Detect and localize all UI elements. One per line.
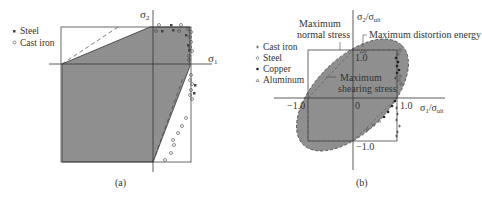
aluminum-marker-icon xyxy=(256,79,259,82)
y-axis-label-b: σ2/σult xyxy=(357,11,381,23)
steel-marker-icon xyxy=(13,30,16,33)
annotation-distortion: Maximum distortion energy xyxy=(369,29,481,40)
caption-b: (b) xyxy=(356,177,368,189)
legend-label-cast-iron: Cast iron xyxy=(20,38,55,48)
panel-b: σ2/σult σ1/σult −1.0 0 1.0 1.0 −1.0 Maxi… xyxy=(256,10,481,189)
legend-label-aluminum: Aluminum xyxy=(263,75,305,85)
legend-a: Steel Cast iron xyxy=(13,26,55,48)
copper-marker-icon xyxy=(256,68,259,71)
y-axis-label-a: σ2 xyxy=(140,8,150,22)
legend-label-steel: Steel xyxy=(20,26,39,36)
figure-canvas: σ2 σ1 Steel Cast iron (a) xyxy=(0,0,482,201)
tick-x-pos: 1.0 xyxy=(400,100,413,111)
failure-envelope-a xyxy=(62,27,190,162)
tick-x-neg: −1.0 xyxy=(287,100,305,111)
annotation-normal-line1: Maximum xyxy=(299,18,341,29)
legend-b: Cast iron Steel Copper Aluminum xyxy=(256,42,305,85)
legend-label-copper: Copper xyxy=(263,64,292,74)
steel-marker-icon xyxy=(256,57,259,60)
x-axis-label-b: σ1/σult xyxy=(420,102,444,114)
tick-y-neg: −1.0 xyxy=(356,141,374,152)
cast-iron-marker-icon xyxy=(13,41,16,44)
caption-a: (a) xyxy=(115,177,126,189)
legend-label-cast-iron-b: Cast iron xyxy=(263,42,298,52)
tick-zero: 0 xyxy=(355,100,360,111)
cast-iron-marker-icon xyxy=(256,46,259,49)
annotation-shear-line2: shearing stress xyxy=(338,83,397,94)
annotation-normal-line2: normal stress xyxy=(297,29,350,40)
tick-y-pos: 1.0 xyxy=(355,52,368,63)
panel-a: σ2 σ1 Steel Cast iron (a) xyxy=(13,8,218,189)
legend-label-steel-b: Steel xyxy=(263,53,282,63)
x-axis-label-a: σ1 xyxy=(208,52,218,66)
annotation-shear-line1: Maximum xyxy=(340,72,382,83)
distortion-energy-ellipse xyxy=(277,19,428,170)
